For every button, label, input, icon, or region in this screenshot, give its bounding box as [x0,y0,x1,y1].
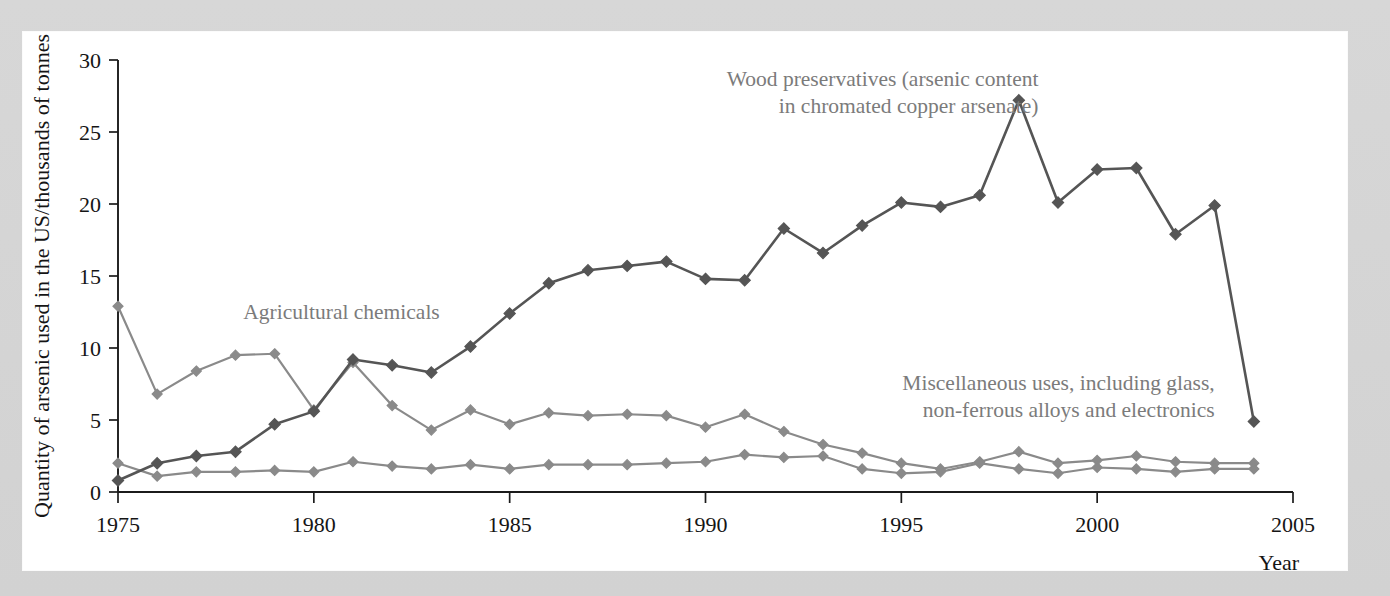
y-axis-title: Quantity of arsenic used in the US/thous… [29,34,54,518]
series-marker [701,457,711,467]
series-marker [152,458,163,469]
y-axis-tick-label: 15 [79,264,101,289]
series-marker [113,458,123,468]
series-miscellaneous-uses [113,450,1259,482]
y-axis-tick-label: 25 [79,120,101,145]
series-marker [661,458,671,468]
series-marker [152,471,162,481]
series-marker [191,450,202,461]
x-axis-title: Year [1258,550,1299,570]
series-marker [896,458,906,468]
annotation-wood-preservatives: Wood preservatives (arsenic content [727,67,1039,91]
plot-area: 0510152025301975198019851990199520002005… [29,34,1315,570]
series-marker [112,475,123,486]
series-marker [583,460,593,470]
series-marker [152,389,162,399]
series-marker [191,366,201,376]
y-axis-tick-label: 0 [90,480,101,505]
series-marker [231,467,241,477]
series-marker [1131,162,1142,173]
x-axis-tick-label: 1975 [96,512,140,537]
series-marker [426,464,436,474]
series-marker [309,467,319,477]
series-marker [466,460,476,470]
series-marker [740,409,750,419]
x-axis-tick-label: 1985 [488,512,532,537]
series-marker [113,301,123,311]
series-marker [466,405,476,415]
series-marker [857,464,867,474]
series-marker [191,467,201,477]
series-marker [426,425,436,435]
x-axis-tick-label: 2005 [1271,512,1315,537]
series-marker [818,451,828,461]
x-axis-tick-label: 1995 [879,512,923,537]
series-marker [270,465,280,475]
annotation-miscellaneous-uses: non-ferrous alloys and electronics [923,398,1215,422]
series-marker [896,468,906,478]
series-marker [231,350,241,360]
series-marker [661,256,672,267]
series-marker [582,265,593,276]
series-marker [1092,463,1102,473]
line-chart: 0510152025301975198019851990199520002005… [23,32,1347,570]
series-marker [700,273,711,284]
x-axis-tick-label: 2000 [1075,512,1119,537]
series-marker [1171,457,1181,467]
series-marker [1131,451,1141,461]
x-axis-tick-label: 1980 [292,512,336,537]
series-marker [505,464,515,474]
series-line [118,100,1254,480]
annotation-miscellaneous-uses: Miscellaneous uses, including glass, [902,371,1214,395]
series-marker [622,460,632,470]
series-marker [661,411,671,421]
series-marker [544,460,554,470]
series-marker [583,411,593,421]
page-root: 0510152025301975198019851990199520002005… [0,0,1390,596]
series-marker [1053,468,1063,478]
series-marker [622,409,632,419]
series-marker [779,452,789,462]
series-marker [935,201,946,212]
series-marker [348,457,358,467]
series-wood-preservatives [112,95,1259,486]
x-axis-tick-label: 1990 [684,512,728,537]
series-marker [896,197,907,208]
series-marker [779,427,789,437]
series-marker [1014,447,1024,457]
series-marker [544,408,554,418]
annotation-wood-preservatives: in chromated copper arsenate) [779,94,1039,118]
y-axis-tick-label: 10 [79,336,101,361]
series-marker [1053,458,1063,468]
series-marker [740,450,750,460]
series-marker [622,260,633,271]
series-line [118,455,1254,477]
series-marker [857,448,867,458]
series-marker [701,422,711,432]
y-axis-tick-label: 20 [79,192,101,217]
series-marker [387,360,398,371]
series-marker [387,461,397,471]
annotation-agricultural-chemicals: Agricultural chemicals [243,300,439,324]
series-marker [1171,467,1181,477]
series-marker [1248,416,1259,427]
series-marker [818,439,828,449]
series-marker [974,190,985,201]
series-marker [1131,464,1141,474]
y-axis-tick-label: 5 [90,408,101,433]
series-marker [505,419,515,429]
y-axis-tick-label: 30 [79,48,101,73]
figure-panel: 0510152025301975198019851990199520002005… [23,32,1347,570]
series-marker [1014,464,1024,474]
